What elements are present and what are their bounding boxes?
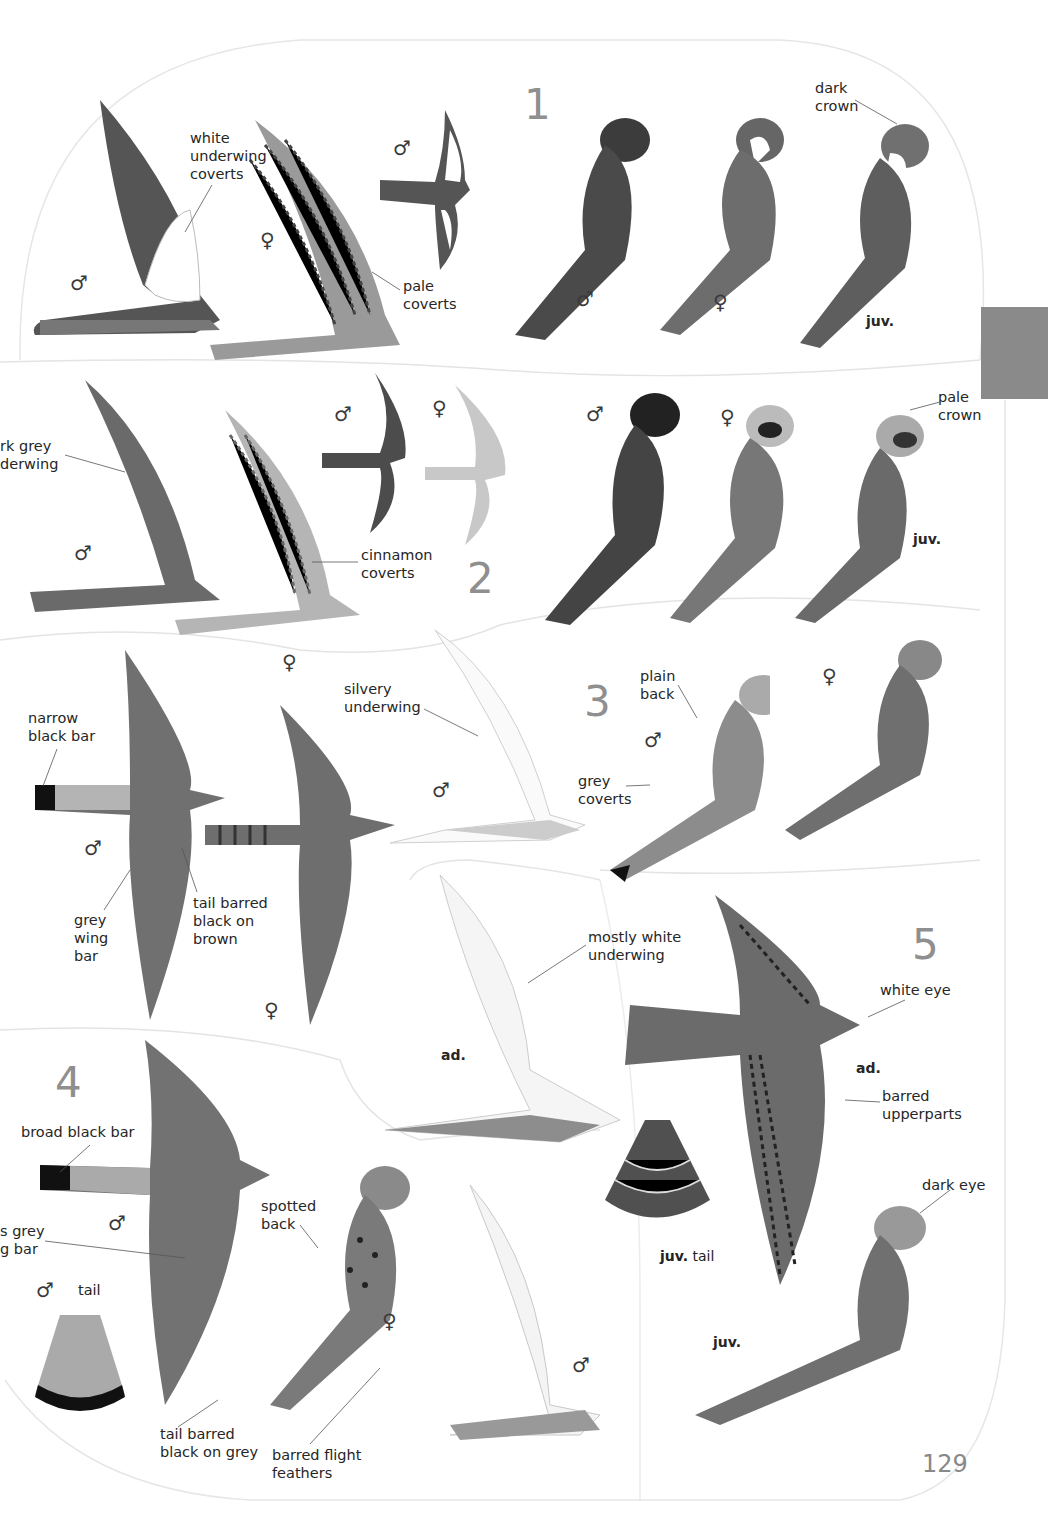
annotation-leader-lines [0, 0, 1048, 1525]
page-number: 129 [922, 1450, 968, 1478]
field-guide-page: 1 2 3 4 5 white underwing coverts pale c… [0, 0, 1048, 1525]
